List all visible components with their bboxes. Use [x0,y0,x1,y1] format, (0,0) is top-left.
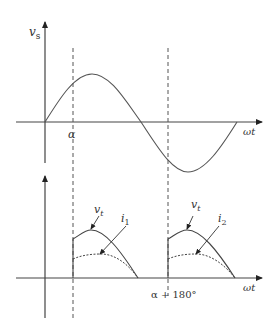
current-i2-curve [168,254,235,278]
bottom-plot: vt i1 vt i2 α + 180° ωt [16,176,262,318]
i1-label: i1 [121,212,130,227]
thyristor-voltage-pulse-2 [168,230,235,278]
i2-label: i2 [218,212,227,227]
current-i1-curve [73,254,138,278]
top-wt-label: ωt [243,126,256,137]
vt-arrow-2 [187,216,193,229]
i1-arrow [100,226,126,254]
vt-arrow-1 [91,216,99,229]
vt-label-2: vt [191,198,201,213]
source-voltage-sine [45,74,237,172]
top-plot: vs α ωt [16,22,262,172]
bottom-wt-label: ωt [243,282,256,293]
vt-label-1: vt [94,203,104,218]
alpha180-label: α + 180° [151,289,197,300]
vs-label: vs [29,25,41,41]
alpha-label: α [68,128,76,141]
thyristor-waveform-diagram: vs α ωt vt i1 vt i2 α + 180° ωt [0,0,275,333]
